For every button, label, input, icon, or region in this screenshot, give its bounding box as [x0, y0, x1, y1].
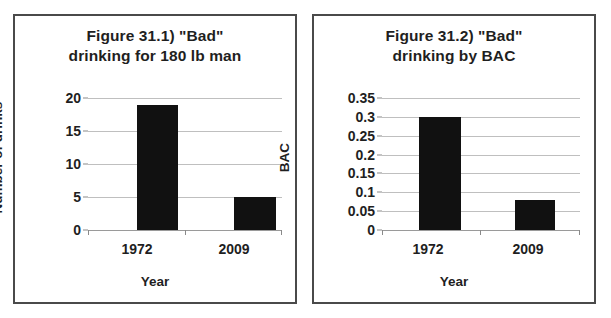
- x-category-label-1972: 1972: [121, 241, 152, 257]
- y-tick-label-0-35: 0.35: [348, 90, 375, 106]
- bar-1972: [137, 105, 178, 230]
- x-tickmark-mid: [480, 230, 481, 235]
- y-axis-title-figure-31-2: BAC: [277, 118, 292, 198]
- y-tick-label-0: 0: [367, 222, 375, 238]
- y-tick-label-0: 0: [73, 222, 81, 238]
- y-tick-label-0-05: 0.05: [348, 203, 375, 219]
- y-tick-label-5: 5: [73, 189, 81, 205]
- y-tick-label-0-1: 0.1: [356, 184, 375, 200]
- x-axis-title-figure-31-1: Year: [15, 274, 295, 289]
- gridline-0-3: [382, 117, 580, 118]
- axis-baseline: [382, 230, 580, 231]
- x-tickmark-start: [88, 230, 89, 235]
- y-tick-label-0-3: 0.3: [356, 109, 375, 125]
- gridline-10: [88, 164, 282, 165]
- y-tick-label-0-2: 0.2: [356, 147, 375, 163]
- gridline-0-25: [382, 136, 580, 137]
- chart-panel-figure-31-1: Figure 31.1) "Bad" drinking for 180 lb m…: [13, 14, 297, 304]
- y-tickmark-10: [83, 164, 88, 165]
- y-tick-label-0-15: 0.15: [348, 165, 375, 181]
- bar-2009: [515, 200, 555, 230]
- y-tickmark-0-15: [377, 173, 382, 174]
- y-tick-label-10: 10: [65, 156, 81, 172]
- gridline-15: [88, 131, 282, 132]
- y-tickmark-5: [83, 197, 88, 198]
- y-axis-title-figure-31-1: Number of drinks: [0, 98, 5, 218]
- y-tickmark-0-1: [377, 192, 382, 193]
- x-tickmark-end: [579, 230, 580, 235]
- plot-wrapper-figure-31-1: Number of drinks 20 15 10 5 0: [15, 16, 295, 302]
- y-tickmark-0-35: [377, 98, 382, 99]
- x-tickmark-mid: [185, 230, 186, 235]
- gridline-0-15: [382, 173, 580, 174]
- gridline-0-35: [382, 98, 580, 99]
- plot-area-figure-31-2: 0.35 0.3 0.25 0.2 0.15 0.1 0.05 0 1972 2…: [382, 98, 580, 230]
- x-tickmark-end: [281, 230, 282, 235]
- y-tick-label-15: 15: [65, 123, 81, 139]
- y-tickmark-15: [83, 131, 88, 132]
- bar-2009: [234, 197, 276, 230]
- y-tickmark-20: [83, 98, 88, 99]
- y-tick-label-0-25: 0.25: [348, 128, 375, 144]
- y-tickmark-0-25: [377, 135, 382, 136]
- x-category-label-2009: 2009: [512, 241, 543, 257]
- y-tickmark-0-05: [377, 211, 382, 212]
- chart-panel-figure-31-2: Figure 31.2) "Bad" drinking by BAC BAC: [312, 14, 596, 304]
- y-tick-label-20: 20: [65, 90, 81, 106]
- plot-area-figure-31-1: 20 15 10 5 0 1972 2009: [88, 98, 282, 230]
- bar-1972: [419, 117, 461, 230]
- gridline-0-1: [382, 192, 580, 193]
- gridline-20: [88, 98, 282, 99]
- figure-page: Figure 31.1) "Bad" drinking for 180 lb m…: [0, 0, 611, 318]
- x-tickmark-start: [382, 230, 383, 235]
- y-tickmark-0-3: [377, 116, 382, 117]
- plot-wrapper-figure-31-2: BAC 0.35 0.3: [314, 16, 594, 302]
- gridline-0-2: [382, 155, 580, 156]
- y-tickmark-0-2: [377, 154, 382, 155]
- x-category-label-2009: 2009: [218, 241, 249, 257]
- x-category-label-1972: 1972: [412, 241, 443, 257]
- x-axis-title-figure-31-2: Year: [314, 274, 594, 289]
